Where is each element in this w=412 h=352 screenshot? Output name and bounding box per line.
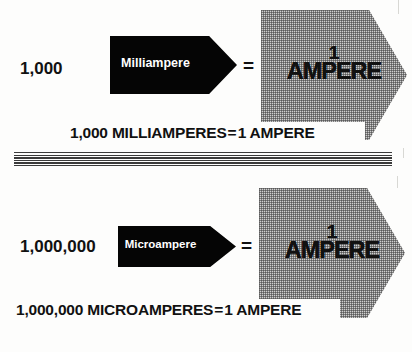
result-unit-milliampere: AMPERE (260, 61, 409, 82)
multiplier-milliampere: 1,000 (20, 59, 63, 79)
caption-right-microampere: 1 AMPERE (224, 301, 301, 318)
horizontal-rule-stack (14, 152, 392, 166)
equals-sign-microampere: = (241, 236, 252, 255)
rule-line (14, 160, 392, 161)
rule-line (14, 155, 392, 156)
page-edge-tick (397, 176, 398, 188)
rule-line (14, 152, 392, 153)
rule-line (14, 157, 392, 158)
caption-left-milliampere: 1,000 MILLIAMPERES (70, 124, 227, 141)
unit-arrow-label-milliampere: Milliampere (110, 56, 201, 70)
caption-equals-milliampere: = (227, 124, 238, 141)
multiplier-microampere: 1,000,000 (20, 237, 96, 257)
result-arrow-label-milliampere: 1 AMPERE (261, 44, 407, 83)
unit-arrow-label-microampere: Microampere (118, 238, 203, 250)
rule-line (14, 162, 392, 163)
rule-line (14, 165, 392, 166)
caption-equals-microampere: = (213, 301, 224, 318)
equals-sign-milliampere: = (243, 56, 254, 75)
caption-left-microampere: 1,000,000 MICROAMPERES (16, 301, 213, 318)
caption-microampere: 1,000,000 MICROAMPERES=1 AMPERE (16, 301, 301, 319)
page-edge-tick (398, 0, 399, 14)
caption-right-milliampere: 1 AMPERE (238, 124, 315, 141)
page-edge-tick (403, 148, 404, 158)
result-arrow-label-microampere: 1 AMPERE (259, 223, 405, 262)
milliampere-row: 1 AMPERE 1,000 Milliampere = 1,000 MILLI… (0, 0, 412, 150)
microampere-row: 1 AMPERE 1,000,000 Microampere = 1,000,0… (0, 176, 412, 352)
result-unit-microampere: AMPERE (258, 240, 407, 261)
caption-milliampere: 1,000 MILLIAMPERES=1 AMPERE (70, 124, 315, 142)
